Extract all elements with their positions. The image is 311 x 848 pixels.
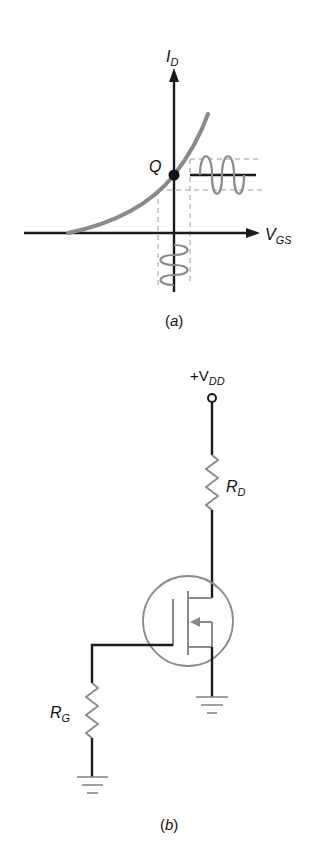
- zero-bias-circuit: +VDD RD: [50, 367, 246, 833]
- drain-resistor: [206, 455, 218, 510]
- rg-label: RG: [50, 704, 71, 724]
- transfer-curve: [68, 114, 208, 233]
- output-signal: [190, 156, 256, 194]
- substrate-arrow-icon: [190, 617, 200, 627]
- q-point-dot: [169, 170, 180, 181]
- y-axis-arrow-icon: [169, 68, 179, 82]
- transfer-characteristic-graph: Q ID VGS (a): [24, 48, 292, 329]
- vdd-terminal: [208, 394, 216, 402]
- x-axis-arrow-icon: [246, 228, 260, 238]
- mosfet-symbol: [143, 576, 233, 666]
- source-ground-icon: [196, 697, 228, 713]
- caption-b: (b): [160, 816, 178, 833]
- q-point-label: Q: [149, 158, 161, 175]
- caption-a: (a): [165, 312, 183, 329]
- mosfet-figure: Q ID VGS (a) +VDD RD: [0, 0, 311, 848]
- gate-wire: [92, 645, 173, 683]
- id-axis-label: ID: [166, 48, 178, 68]
- vgs-axis: [24, 228, 260, 238]
- vgs-axis-label: VGS: [265, 226, 292, 246]
- vdd-label: +VDD: [190, 367, 225, 387]
- rd-label: RD: [226, 478, 246, 498]
- gate-resistor: [86, 683, 98, 738]
- gate-ground-icon: [77, 777, 108, 793]
